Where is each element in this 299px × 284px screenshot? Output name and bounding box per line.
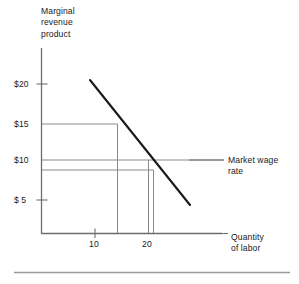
y-tick-label-20: $20: [14, 79, 29, 89]
marginal-revenue-product-figure: Marginal revenue product Quantity of lab…: [0, 0, 299, 284]
x-tick-label-20: 20: [142, 239, 152, 249]
y-tick-label-10: $10: [14, 155, 29, 165]
y-axis-title: Marginal revenue product: [41, 6, 75, 40]
y-tick-label-15: $15: [14, 119, 29, 129]
x-tick-label-10: 10: [89, 239, 99, 249]
y-tick-label-5: $ 5: [14, 195, 26, 205]
marginal-revenue-product-curve: [90, 80, 190, 205]
market-wage-rate-annotation: Market wage rate: [228, 155, 278, 178]
x-axis-title: Quantity of labor: [231, 232, 264, 255]
